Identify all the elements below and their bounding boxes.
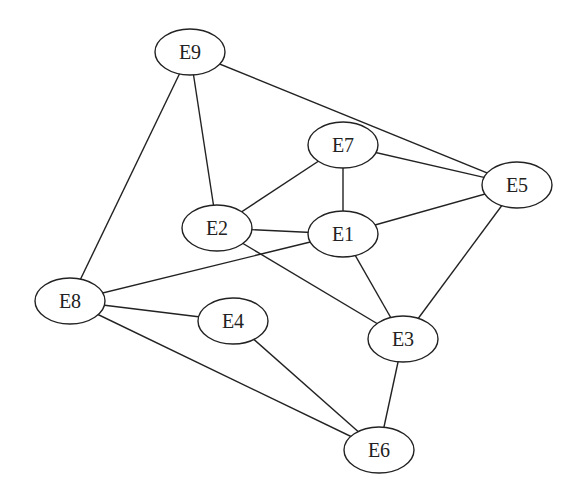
node-label: E8 (59, 290, 81, 312)
node-e8: E8 (35, 278, 105, 324)
graph-diagram: E9E7E5E2E1E8E4E3E6 (0, 0, 571, 491)
node-e9: E9 (155, 29, 225, 75)
edge-e5-e3 (403, 185, 517, 339)
nodes-layer: E9E7E5E2E1E8E4E3E6 (35, 29, 552, 473)
node-e7: E7 (308, 122, 378, 168)
node-e1: E1 (308, 211, 378, 257)
edge-e4-e6 (233, 321, 379, 450)
node-label: E6 (368, 439, 390, 461)
node-e4: E4 (198, 298, 268, 344)
edge-e9-e8 (70, 52, 190, 301)
node-label: E3 (392, 328, 414, 350)
edge-e9-e2 (190, 52, 217, 228)
node-label: E5 (506, 174, 528, 196)
node-label: E1 (332, 223, 354, 245)
node-e3: E3 (368, 316, 438, 362)
node-label: E7 (332, 134, 354, 156)
node-label: E2 (206, 217, 228, 239)
node-e5: E5 (482, 162, 552, 208)
edges-layer (70, 52, 517, 450)
node-e6: E6 (344, 427, 414, 473)
node-label: E4 (222, 310, 244, 332)
graph-svg: E9E7E5E2E1E8E4E3E6 (0, 0, 571, 491)
node-label: E9 (179, 41, 201, 63)
node-e2: E2 (182, 205, 252, 251)
